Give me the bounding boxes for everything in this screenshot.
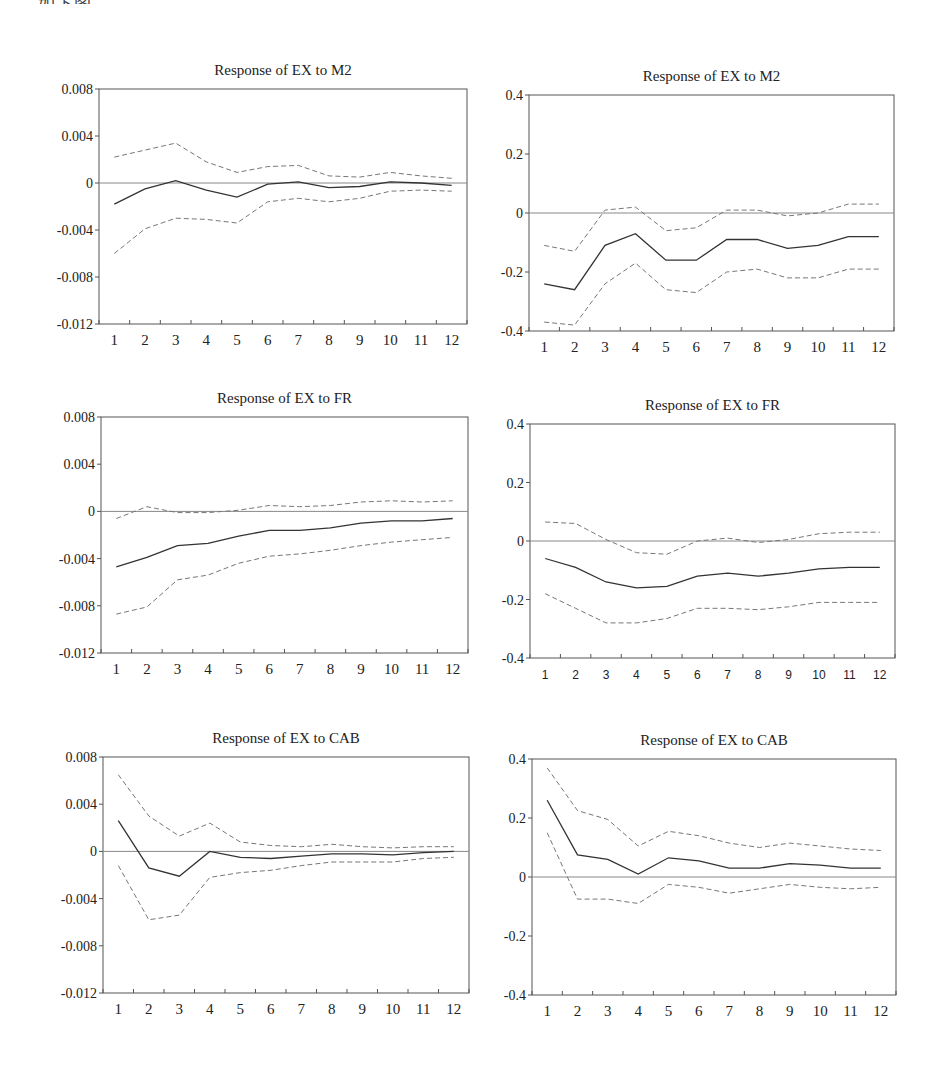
x-tick-label: 6 xyxy=(695,1003,703,1019)
y-tick-label: -0.2 xyxy=(504,929,526,944)
x-tick-label: 10 xyxy=(813,1003,828,1019)
x-tick-label: 8 xyxy=(756,1003,764,1019)
x-tick-label: 9 xyxy=(786,1003,794,1019)
y-tick-label: 0.4 xyxy=(509,752,527,767)
y-tick-label: 0.2 xyxy=(509,811,527,826)
x-tick-label: 3 xyxy=(604,1003,612,1019)
series-response xyxy=(547,800,881,874)
y-tick-label: -0.4 xyxy=(504,988,526,1003)
x-tick-label: 5 xyxy=(665,1003,673,1019)
x-tick-label: 2 xyxy=(574,1003,582,1019)
y-tick-label: 0 xyxy=(519,870,526,885)
x-tick-label: 12 xyxy=(873,1003,888,1019)
series-lower-band xyxy=(547,833,881,904)
series-upper-band xyxy=(547,768,881,851)
x-tick-label: 4 xyxy=(634,1003,642,1019)
x-tick-label: 7 xyxy=(725,1003,733,1019)
x-tick-label: 11 xyxy=(843,1003,857,1019)
x-tick-label: 1 xyxy=(543,1003,551,1019)
